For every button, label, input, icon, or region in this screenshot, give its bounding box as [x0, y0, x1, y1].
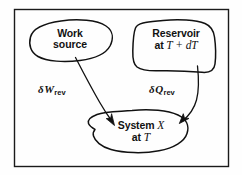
work-source-label: Work source [45, 28, 95, 51]
diagram-canvas [0, 0, 242, 175]
system-line-1: System X [108, 119, 174, 131]
reservoir-label: Reservoir at T + dT [142, 28, 210, 52]
system-at-text: at [132, 131, 141, 143]
reservoir-temperature-math: T + dT [166, 39, 197, 51]
system-name-text: System [118, 119, 155, 131]
heat-flow-arrow-path [183, 66, 199, 121]
reservoir-line-1: Reservoir [142, 28, 210, 39]
reservoir-line-2: at T + dT [142, 39, 210, 51]
thermodynamics-figure: Work source Reservoir at T + dT System X… [0, 0, 242, 175]
system-temperature-math: T [144, 131, 150, 143]
system-line-2: at T [108, 131, 174, 143]
work-source-line-2: source [45, 39, 95, 50]
system-symbol-math: X [157, 119, 164, 131]
heat-subscript: rev [164, 88, 175, 97]
reservoir-at-text: at [154, 39, 163, 51]
heat-delta-symbol: δ [149, 83, 155, 95]
work-symbol: W [44, 83, 54, 95]
heat-flow-label: δQrev [149, 84, 175, 96]
work-flow-label: δWrev [38, 84, 66, 96]
work-delta-symbol: δ [38, 83, 44, 95]
work-subscript: rev [54, 88, 65, 97]
heat-flow-arrowhead [179, 114, 189, 124]
system-label: System X at T [108, 119, 174, 144]
heat-symbol: Q [155, 83, 163, 95]
